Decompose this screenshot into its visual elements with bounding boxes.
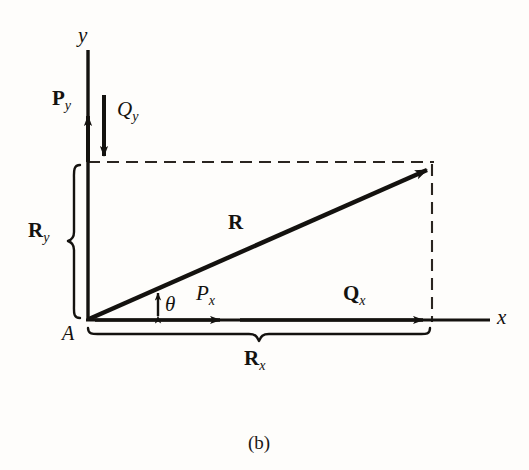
p-vertical-subscript: y xyxy=(65,98,71,113)
rx-brace-shape xyxy=(88,328,430,341)
rx-subscript: x xyxy=(259,358,265,373)
q-vertical-subscript: y xyxy=(132,109,138,124)
ry-subscript: y xyxy=(43,230,49,245)
rx-brace-label: Rx xyxy=(244,348,265,369)
y-axis-label: y xyxy=(78,25,87,46)
x-axis-label: x xyxy=(497,307,506,328)
vector-diagram-figure: y x A Py Qy R θ Px Qx Ry Rx (b) xyxy=(0,0,529,470)
q-horizontal-base: Q xyxy=(343,281,359,305)
resultant-base: R xyxy=(228,210,243,234)
figure-caption: (b) xyxy=(248,432,270,454)
p-horizontal-base: P xyxy=(196,281,209,305)
ry-brace-label: Ry xyxy=(28,220,49,241)
q-horizontal-subscript: x xyxy=(359,293,365,308)
p-horizontal-subscript: x xyxy=(209,293,215,308)
q-vertical-base: Q xyxy=(117,97,132,121)
origin-point-label: A xyxy=(62,323,74,343)
rx-base: R xyxy=(244,346,259,370)
vector-diagram-canvas xyxy=(0,0,529,470)
ry-brace-shape xyxy=(68,165,80,318)
p-horizontal-component-label: Px xyxy=(196,283,215,304)
q-vertical-component-label: Qy xyxy=(117,99,138,120)
ry-base: R xyxy=(28,218,43,242)
theta-angle-label: θ xyxy=(165,294,175,315)
resultant-vector-label: R xyxy=(228,212,243,233)
q-horizontal-component-label: Qx xyxy=(343,283,366,304)
p-vertical-component-label: Py xyxy=(52,88,71,109)
p-vertical-base: P xyxy=(52,86,65,110)
resultant-vector-arrow xyxy=(89,170,427,319)
